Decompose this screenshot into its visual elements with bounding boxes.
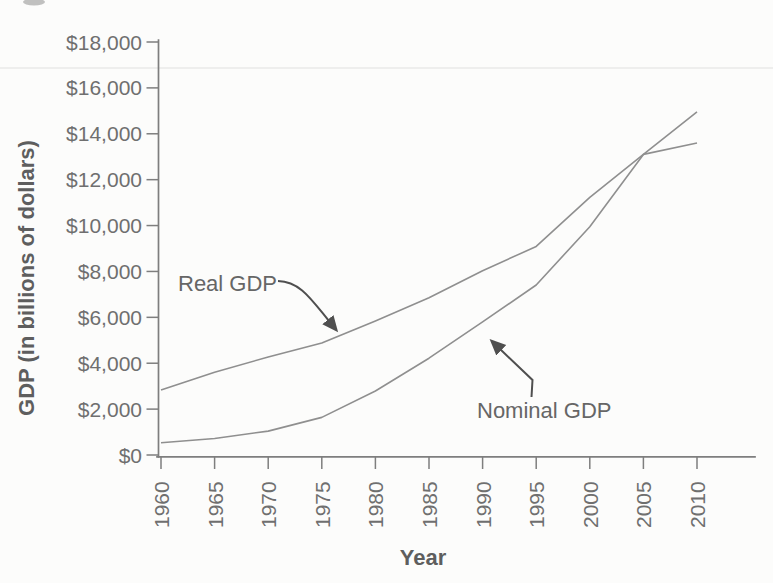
- y-tick-label: $4,000: [78, 352, 142, 375]
- x-tick-label: 1985: [418, 481, 441, 528]
- real-gdp-label: Real GDP: [178, 271, 277, 296]
- y-tick-label: $12,000: [66, 168, 142, 191]
- scan-artifact-smudge: [23, 0, 45, 6]
- y-tick-label: $6,000: [78, 306, 142, 329]
- y-tick-label: $10,000: [66, 214, 142, 237]
- real-gdp-line: [161, 143, 697, 390]
- x-tick-label: 1990: [472, 481, 495, 528]
- y-axis-title: GDP (in billions of dollars): [14, 140, 39, 416]
- y-tick-label: $8,000: [78, 260, 142, 283]
- x-tick-label: 1975: [311, 481, 334, 528]
- nominal-gdp-label: Nominal GDP: [477, 398, 611, 423]
- x-tick-label: 1965: [204, 481, 227, 528]
- y-axis-ticks: $0$2,000$4,000$6,000$8,000$10,000$12,000…: [66, 31, 158, 467]
- x-tick-label: 2005: [632, 481, 655, 528]
- x-tick-label: 1995: [525, 481, 548, 528]
- y-tick-label: $18,000: [66, 31, 142, 54]
- x-tick-label: 2000: [579, 481, 602, 528]
- y-tick-label: $2,000: [78, 398, 142, 421]
- x-axis-title: Year: [400, 545, 447, 570]
- real-gdp-arrow: [278, 281, 329, 321]
- y-tick-label: $16,000: [66, 76, 142, 99]
- x-tick-label: 1960: [150, 481, 173, 528]
- x-tick-label: 1980: [364, 481, 387, 528]
- nominal-gdp-arrow: [500, 349, 533, 397]
- x-tick-label: 1970: [257, 481, 280, 528]
- x-tick-label: 2010: [686, 481, 709, 528]
- y-tick-label: $14,000: [66, 122, 142, 145]
- y-tick-label: $0: [119, 444, 142, 467]
- chart-canvas: $0$2,000$4,000$6,000$8,000$10,000$12,000…: [0, 0, 773, 583]
- x-axis-ticks: 1960196519701975198019851990199520002005…: [150, 457, 709, 528]
- gdp-line-chart-figure: $0$2,000$4,000$6,000$8,000$10,000$12,000…: [0, 0, 773, 583]
